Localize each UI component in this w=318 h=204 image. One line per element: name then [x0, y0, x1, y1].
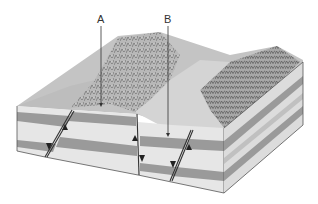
label-a: A — [97, 14, 104, 25]
label-b: B — [164, 14, 171, 25]
fault-block-diagram: A B — [0, 0, 318, 204]
block-diagram-svg — [0, 0, 318, 204]
